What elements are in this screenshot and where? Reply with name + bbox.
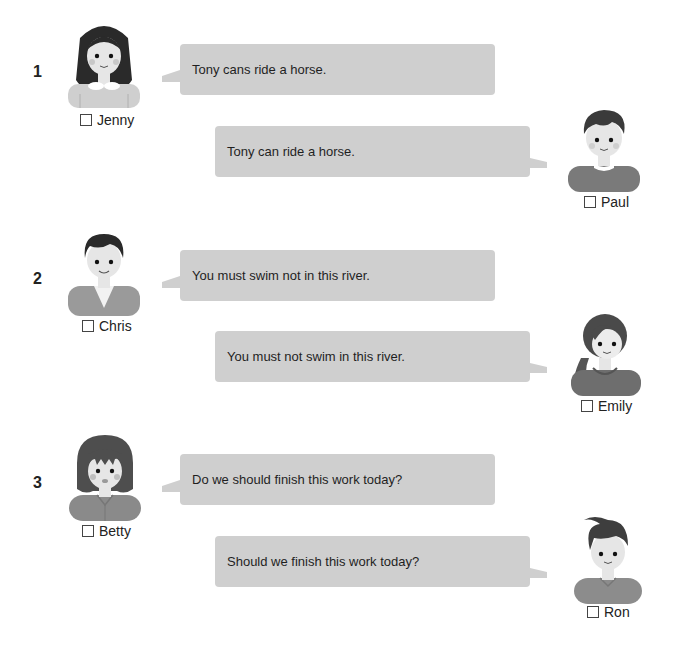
option-chris[interactable]: Chris <box>82 318 132 334</box>
sentence-text: You must not swim in this river. <box>227 349 405 364</box>
checkbox-icon[interactable] <box>581 400 593 412</box>
sentence-text: Tony can ride a horse. <box>227 144 355 159</box>
avatar-emily-icon <box>567 308 643 396</box>
speaker-name: Ron <box>604 604 630 620</box>
speaker-name: Paul <box>601 194 629 210</box>
checkbox-icon[interactable] <box>587 606 599 618</box>
bubble-tail <box>530 568 547 578</box>
option-ron[interactable]: Ron <box>587 604 630 620</box>
checkbox-icon[interactable] <box>82 525 94 537</box>
avatar-paul-icon <box>566 104 642 192</box>
bubble-tail <box>162 70 180 82</box>
speech-bubble-b: Should we finish this work today? <box>215 536 530 587</box>
speaker-name: Emily <box>598 398 632 414</box>
bubble-tail <box>530 158 547 168</box>
option-emily[interactable]: Emily <box>581 398 632 414</box>
question-number: 3 <box>33 474 42 492</box>
option-betty[interactable]: Betty <box>82 523 131 539</box>
avatar-ron-icon <box>570 516 646 604</box>
bubble-tail <box>162 276 180 288</box>
speech-bubble-b: You must not swim in this river. <box>215 331 530 382</box>
bubble-tail <box>162 480 180 492</box>
speaker-name: Chris <box>99 318 132 334</box>
speaker-name: Betty <box>99 523 131 539</box>
speech-bubble-b: Tony can ride a horse. <box>215 126 530 177</box>
speech-bubble-a: Do we should finish this work today? <box>180 454 495 505</box>
checkbox-icon[interactable] <box>80 114 92 126</box>
checkbox-icon[interactable] <box>584 196 596 208</box>
option-paul[interactable]: Paul <box>584 194 629 210</box>
question-number: 2 <box>33 270 42 288</box>
checkbox-icon[interactable] <box>82 320 94 332</box>
bubble-tail <box>530 363 547 373</box>
avatar-betty-icon <box>67 433 143 521</box>
speech-bubble-a: Tony cans ride a horse. <box>180 44 495 95</box>
sentence-text: Should we finish this work today? <box>227 554 419 569</box>
speech-bubble-a: You must swim not in this river. <box>180 250 495 301</box>
sentence-text: You must swim not in this river. <box>192 268 370 283</box>
sentence-text: Tony cans ride a horse. <box>192 62 326 77</box>
question-number: 1 <box>33 63 42 81</box>
speaker-name: Jenny <box>97 112 134 128</box>
option-jenny[interactable]: Jenny <box>80 112 134 128</box>
sentence-text: Do we should finish this work today? <box>192 472 402 487</box>
avatar-chris-icon <box>66 228 142 316</box>
avatar-jenny-icon <box>66 20 142 108</box>
